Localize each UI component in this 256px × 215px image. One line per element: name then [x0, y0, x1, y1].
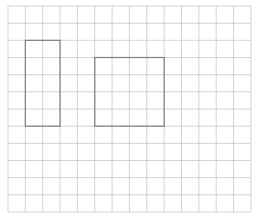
grid-lines — [8, 6, 251, 212]
grid-diagram — [0, 0, 256, 215]
